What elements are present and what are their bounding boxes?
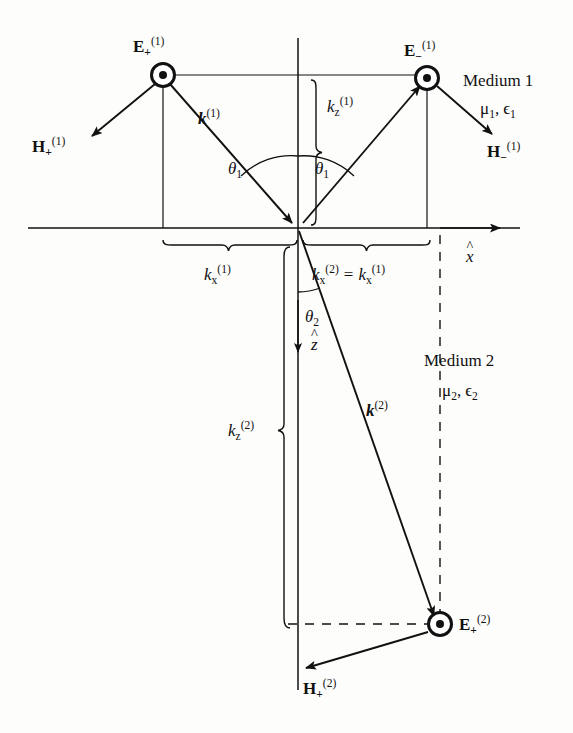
- reflected-E-label: E−(1): [404, 40, 435, 63]
- physics-diagram-figure: E+(1) H+(1) E−(1) H−(1) E+(2) H+(2) k(1)…: [0, 0, 573, 733]
- kx2-equals-kx1-brace: [303, 240, 430, 251]
- incident-H-arrow: [92, 84, 155, 136]
- kz2-brace: [278, 247, 290, 628]
- transmitted-E-dot: [436, 620, 444, 628]
- incident-E-label: E+(1): [133, 36, 164, 59]
- x-axis-label: ^x: [466, 248, 474, 265]
- incident-wavevector-ray: [170, 84, 292, 223]
- transmitted-E-label: E+(2): [459, 614, 490, 637]
- incident-H-label: H+(1): [32, 136, 65, 159]
- theta1-incident-arc: [241, 156, 298, 176]
- medium-1-properties: μ1,ϵ1: [480, 100, 516, 121]
- kz2-label: kz(2): [228, 420, 254, 443]
- kx2-equals-kx1-label: kx(2)=kx(1): [312, 264, 385, 287]
- z-axis-label: ^z: [311, 336, 318, 353]
- kx1-brace: [163, 240, 297, 251]
- medium-2-properties: μ2,ϵ2: [442, 382, 478, 403]
- theta2-arc: [298, 288, 320, 292]
- reflected-H-label: H−(1): [487, 141, 520, 164]
- reflected-wavevector-ray: [303, 86, 420, 223]
- incident-wavevector-label: k(1): [198, 108, 220, 127]
- transmitted-H-label: H+(2): [303, 678, 336, 701]
- field-out-of-page-markers: [152, 64, 452, 636]
- medium-2-label: Medium 2: [424, 352, 494, 369]
- medium-1-label: Medium 1: [463, 72, 533, 89]
- x-hat-mark: ^: [466, 239, 473, 253]
- theta1-reflected-label: θ1: [315, 160, 329, 181]
- kx1-label: kx(1): [204, 264, 231, 287]
- theta1-incident-label: θ1: [228, 160, 242, 181]
- kz1-label: kz(1): [327, 96, 353, 119]
- z-hat-mark: ^: [311, 327, 318, 341]
- transmitted-wavevector-label: k(2): [366, 400, 388, 419]
- reflected-E-dot: [423, 74, 431, 82]
- incident-E-dot: [159, 71, 167, 79]
- transmitted-H-arrow: [306, 632, 428, 668]
